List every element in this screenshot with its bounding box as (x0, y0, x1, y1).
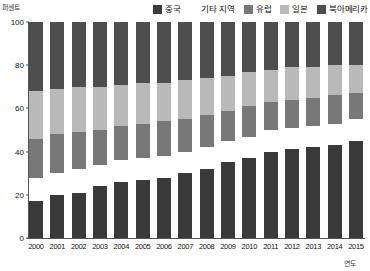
y-tick-label: 40 (15, 147, 24, 156)
bar-segment (157, 178, 171, 238)
bar-segment (242, 158, 256, 238)
bar-segment (72, 87, 86, 132)
bar-segment (349, 119, 363, 141)
bar-segment (93, 186, 107, 238)
bar-segment (200, 169, 214, 238)
bar-segment (285, 67, 299, 99)
x-axis-title: 연도 (344, 258, 356, 268)
bar-segment (264, 152, 278, 238)
bar-segment (328, 145, 342, 238)
bar-segment (93, 165, 107, 187)
bar-segment (29, 91, 43, 139)
bar-column[interactable] (93, 22, 107, 238)
bar-segment (29, 201, 43, 238)
bar-segment (29, 139, 43, 178)
bar-segment (114, 182, 128, 238)
legend-item-3[interactable]: 유럽 (244, 5, 272, 14)
bar-segment (328, 22, 342, 65)
bar-segment (200, 147, 214, 169)
bar-segment (306, 67, 320, 97)
bar-segment (50, 134, 64, 173)
bar-segment (93, 22, 107, 87)
legend-label: 기타 지역 (201, 5, 234, 14)
legend-swatch-other-icon (189, 5, 198, 14)
bar-segment (306, 98, 320, 126)
bar-segment (328, 124, 342, 146)
bar-column[interactable] (29, 22, 43, 238)
bar-column[interactable] (242, 22, 256, 238)
bar-segment (264, 70, 278, 102)
bar-column[interactable] (264, 22, 278, 238)
legend-item-4[interactable]: 일본 (280, 5, 308, 14)
bar-segment (136, 124, 150, 159)
bar-segment (242, 106, 256, 136)
bar-segment (349, 141, 363, 238)
bar-segment (328, 95, 342, 123)
bar-segment (72, 169, 86, 193)
bar-segment (221, 162, 235, 238)
bar-column[interactable] (285, 22, 299, 238)
bar-segment (221, 141, 235, 163)
legend-swatch-japan-icon (280, 5, 289, 14)
bar-column[interactable] (157, 22, 171, 238)
bar-segment (114, 85, 128, 126)
bar-segment (200, 115, 214, 147)
bar-segment (285, 128, 299, 150)
bar-column[interactable] (178, 22, 192, 238)
legend-item-2[interactable]: 기타 지역 (189, 5, 234, 14)
bar-segment (264, 22, 278, 70)
y-axis-ticks: 020406080100 (0, 16, 29, 256)
bar-segment (157, 83, 171, 122)
bar-segment (349, 93, 363, 119)
legend-item-5[interactable]: 북아메리카 (317, 5, 368, 14)
bar-segment (178, 80, 192, 119)
bar-column[interactable] (114, 22, 128, 238)
legend-label: 중국 (165, 5, 181, 14)
bar-segment (306, 22, 320, 67)
bar-segment (264, 102, 278, 130)
bar-segment (221, 76, 235, 111)
bar-segment (349, 65, 363, 93)
bar-segment (242, 137, 256, 159)
legend-item-1[interactable]: 중국 (153, 5, 181, 14)
legend-swatch-europe-icon (244, 5, 253, 14)
bar-segment (328, 65, 342, 95)
bar-segment (264, 130, 278, 152)
bar-segment (93, 87, 107, 130)
bar-segment (50, 89, 64, 134)
bar-column[interactable] (349, 22, 363, 238)
legend-label: 북아메리카 (329, 5, 368, 14)
legend-swatch-north-america-icon (317, 5, 326, 14)
bar-segment (178, 173, 192, 238)
bar-segment (157, 121, 171, 156)
bar-column[interactable] (328, 22, 342, 238)
bar-segment (306, 147, 320, 238)
bar-segment (157, 22, 171, 82)
bar-segment (200, 78, 214, 115)
bar-segment (72, 22, 86, 87)
bar-column[interactable] (136, 22, 150, 238)
bar-column[interactable] (200, 22, 214, 238)
y-tick-label: 100 (11, 18, 24, 27)
y-tick-label: 60 (15, 104, 24, 113)
bar-column[interactable] (50, 22, 64, 238)
bar-segment (285, 100, 299, 128)
y-tick-label: 80 (15, 61, 24, 70)
bar-segment (29, 22, 43, 91)
bar-segment (72, 132, 86, 169)
bar-segment (221, 111, 235, 141)
bar-segment (136, 22, 150, 82)
x-axis-labels: 2000200120022003200420052006200720082009… (29, 242, 363, 256)
bar-segment (306, 126, 320, 148)
bar-segment (50, 22, 64, 89)
y-axis-title: 퍼센트 (2, 2, 19, 12)
bar-segment (200, 22, 214, 78)
bar-segment (349, 22, 363, 65)
bar-column[interactable] (306, 22, 320, 238)
bar-column[interactable] (72, 22, 86, 238)
bar-segment (136, 180, 150, 238)
bar-segment (178, 22, 192, 80)
bar-segment (50, 173, 64, 195)
bar-column[interactable] (221, 22, 235, 238)
bar-segment (221, 22, 235, 76)
